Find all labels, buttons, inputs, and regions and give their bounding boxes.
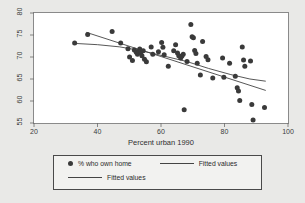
y-tick-label-70: 70 xyxy=(16,49,23,63)
fitted-lines xyxy=(74,32,266,90)
legend-label-own-home: % who own home xyxy=(78,160,132,167)
y-tick-label-60: 60 xyxy=(16,93,23,107)
legend-marker-fitted-2 xyxy=(68,177,102,178)
legend-row-bottom: Fitted values xyxy=(68,174,146,181)
legend-label-fitted-2: Fitted values xyxy=(107,174,146,181)
legend-row-top: % who own home Fitted values xyxy=(68,160,237,167)
x-tick-label-100: 100 xyxy=(278,128,298,135)
y-tick-label-55: 55 xyxy=(16,115,23,129)
y-tick-label-65: 65 xyxy=(16,71,23,85)
axis-ticks xyxy=(30,13,288,127)
x-axis-title: Percent urban 1990 xyxy=(33,138,289,147)
y-tick-label-80: 80 xyxy=(16,5,23,19)
legend-label-fitted-1: Fitted values xyxy=(199,160,238,167)
legend-marker-fitted-1 xyxy=(160,163,194,164)
x-tick-label-20: 20 xyxy=(24,128,44,135)
x-tick-label-80: 80 xyxy=(215,128,235,135)
chart-legend: % who own home Fitted values Fitted valu… xyxy=(53,155,262,190)
legend-marker-own-home xyxy=(68,161,73,166)
y-tick-label-75: 75 xyxy=(16,27,23,41)
x-tick-label-60: 60 xyxy=(151,128,171,135)
x-tick-label-40: 40 xyxy=(88,128,108,135)
chart-root: 556065707580 20406080100 Percent urban 1… xyxy=(0,0,305,203)
